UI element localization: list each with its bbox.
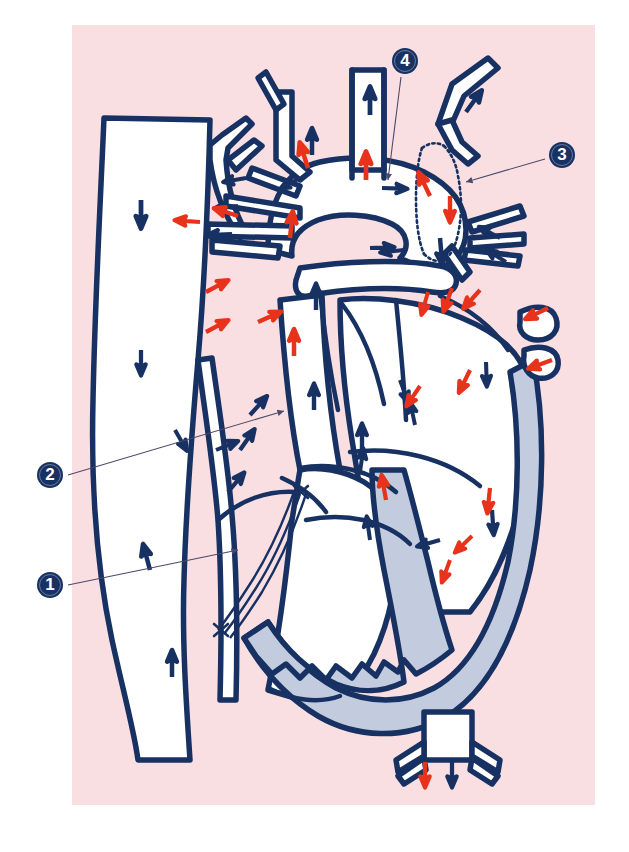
vessel-outlines: [93, 58, 559, 784]
left-subclavian: [438, 58, 498, 128]
anatomy-illustration: [0, 0, 629, 852]
right-hilar-branch-1: [468, 206, 524, 232]
subclavian-lower: [438, 120, 478, 164]
vena-cava-trunk: [93, 118, 210, 760]
callout-label-2[interactable]: 2: [37, 462, 63, 488]
figure-root: 4 3 2 1: [0, 0, 629, 852]
arch-branch-lower2: [212, 240, 280, 258]
callout-label-1[interactable]: 1: [37, 572, 63, 598]
cava-lower-limb: [198, 358, 237, 700]
callout-label-4[interactable]: 4: [392, 48, 418, 74]
apex-vessel: [424, 712, 472, 760]
leader-line-3: [466, 159, 545, 182]
callout-label-3[interactable]: 3: [549, 142, 575, 168]
